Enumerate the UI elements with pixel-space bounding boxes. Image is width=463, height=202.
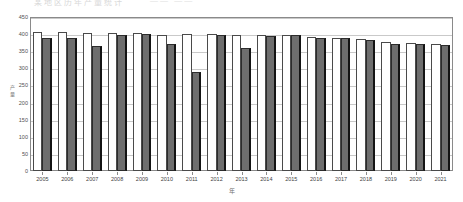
- bar-group: [157, 17, 176, 171]
- bar-系列1-2016: [307, 37, 316, 171]
- bar-系列1-2010: [157, 35, 166, 171]
- bar-group: [83, 17, 102, 171]
- bar-系列2-2010: [167, 44, 176, 171]
- x-tickmark: [192, 172, 193, 175]
- bar-系列1-2020: [406, 43, 415, 171]
- x-tick-label-2021: 2021: [434, 176, 446, 182]
- bar-group: [133, 17, 152, 171]
- bar-系列1-2006: [58, 32, 67, 171]
- bar-系列1-2014: [257, 35, 266, 171]
- x-tick-label-2020: 2020: [410, 176, 422, 182]
- bar-series-container: [30, 17, 453, 171]
- x-axis-ticks: 2005200620072008200920102011201220132014…: [30, 172, 453, 184]
- x-tick-label-2015: 2015: [285, 176, 297, 182]
- chart-figure: 某地区历年产量统计 —— —— 产量 050100150200250300350…: [0, 0, 463, 202]
- x-tickmark: [416, 172, 417, 175]
- bar-系列1-2007: [83, 33, 92, 171]
- x-tick-label-2009: 2009: [136, 176, 148, 182]
- y-tick-label: 350: [19, 48, 28, 54]
- x-tickmark: [217, 172, 218, 175]
- y-tick-label: 100: [19, 134, 28, 140]
- bar-group: [58, 17, 77, 171]
- x-tick-label-2018: 2018: [360, 176, 372, 182]
- x-tick-label-2017: 2017: [335, 176, 347, 182]
- x-tickmark: [167, 172, 168, 175]
- bar-group: [282, 17, 301, 171]
- y-tick-label: 450: [19, 14, 28, 20]
- bar-group: [207, 17, 226, 171]
- bar-系列2-2014: [266, 36, 275, 171]
- y-tick-label: 300: [19, 65, 28, 71]
- bar-系列2-2020: [416, 44, 425, 171]
- x-tick-label-2013: 2013: [235, 176, 247, 182]
- bar-系列2-2006: [67, 38, 76, 171]
- bar-系列2-2007: [92, 46, 101, 171]
- bar-系列2-2021: [441, 45, 450, 171]
- bar-系列2-2008: [117, 35, 126, 171]
- x-tick-label-2005: 2005: [36, 176, 48, 182]
- x-tick-label-2016: 2016: [310, 176, 322, 182]
- bar-group: [381, 17, 400, 171]
- y-tick-label: 150: [19, 117, 28, 123]
- bar-group: [307, 17, 326, 171]
- bar-系列2-2016: [316, 38, 325, 171]
- x-tickmark: [142, 172, 143, 175]
- bar-系列2-2012: [217, 35, 226, 171]
- x-tickmark: [291, 172, 292, 175]
- bar-系列1-2012: [207, 34, 216, 171]
- x-tick-label-2014: 2014: [260, 176, 272, 182]
- y-tick-label: 50: [22, 151, 28, 157]
- y-axis-ticks: 050100150200250300350400450: [0, 17, 30, 171]
- bar-系列1-2008: [108, 33, 117, 171]
- bar-group: [257, 17, 276, 171]
- bar-group: [108, 17, 127, 171]
- x-tickmark: [242, 172, 243, 175]
- bar-系列2-2009: [142, 34, 151, 171]
- bar-group: [232, 17, 251, 171]
- x-tickmark: [67, 172, 68, 175]
- chart-title: 某地区历年产量统计: [34, 0, 124, 7]
- bar-系列1-2021: [431, 44, 440, 171]
- x-tick-label-2006: 2006: [61, 176, 73, 182]
- bar-group: [431, 17, 450, 171]
- x-tick-label-2019: 2019: [385, 176, 397, 182]
- bar-group: [406, 17, 425, 171]
- x-tick-label-2011: 2011: [186, 176, 198, 182]
- x-tickmark: [92, 172, 93, 175]
- x-tickmark: [42, 172, 43, 175]
- bar-系列1-2017: [332, 38, 341, 171]
- bar-系列2-2011: [192, 72, 201, 171]
- x-tickmark: [366, 172, 367, 175]
- bar-系列2-2017: [341, 38, 350, 171]
- x-tickmark: [266, 172, 267, 175]
- x-tickmark: [391, 172, 392, 175]
- bar-系列1-2015: [282, 35, 291, 171]
- bar-系列2-2005: [42, 38, 51, 171]
- y-tick-label: 200: [19, 100, 28, 106]
- x-tick-label-2007: 2007: [86, 176, 98, 182]
- y-tick-label: 400: [19, 31, 28, 37]
- bar-系列2-2018: [366, 40, 375, 171]
- x-tickmark: [341, 172, 342, 175]
- bar-系列2-2013: [241, 48, 250, 171]
- chart-legend: —— ——: [150, 0, 194, 5]
- x-tickmark: [316, 172, 317, 175]
- y-tick-label: 250: [19, 82, 28, 88]
- bar-group: [33, 17, 52, 171]
- x-axis-title: 年: [0, 186, 463, 195]
- title-strip: 某地区历年产量统计 —— ——: [0, 0, 463, 11]
- bar-group: [356, 17, 375, 171]
- bar-系列1-2005: [33, 32, 42, 171]
- x-tick-label-2012: 2012: [210, 176, 222, 182]
- bar-系列2-2019: [391, 44, 400, 171]
- x-tick-label-2010: 2010: [161, 176, 173, 182]
- x-tick-label-2008: 2008: [111, 176, 123, 182]
- bar-系列1-2019: [381, 42, 390, 171]
- bar-系列1-2018: [356, 39, 365, 171]
- bar-group: [332, 17, 351, 171]
- bar-group: [182, 17, 201, 171]
- bar-系列2-2015: [291, 35, 300, 171]
- bar-系列1-2011: [182, 34, 191, 171]
- x-tickmark: [117, 172, 118, 175]
- bar-系列1-2009: [133, 33, 142, 171]
